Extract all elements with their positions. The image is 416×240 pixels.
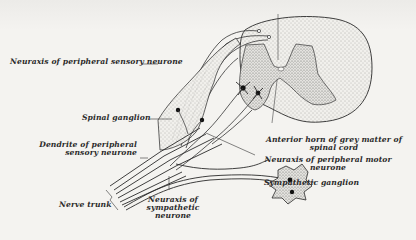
label-dendrite: Dendrite of peripheral sensory neurone bbox=[37, 141, 137, 157]
central-canal bbox=[278, 67, 284, 71]
label-neuraxis-symp-line3: neurone bbox=[143, 212, 203, 220]
label-sympathetic-ganglion: Sympathetic ganglion bbox=[264, 179, 359, 187]
label-anterior-horn-line2: spinal cord bbox=[264, 144, 404, 152]
label-neuraxis-motor-line2: neurone bbox=[262, 164, 394, 172]
label-anterior-horn: Anterior horn of grey matter of spinal c… bbox=[264, 136, 404, 152]
label-nerve-trunk: Nerve trunk bbox=[59, 201, 112, 209]
label-neuraxis-sympathetic: Neuraxis of sympathetic neurone bbox=[143, 196, 203, 220]
spinal-ganglion bbox=[158, 38, 240, 150]
label-dendrite-line2: sensory neurone bbox=[37, 149, 137, 157]
label-neuraxis-motor: Neuraxis of peripheral motor neurone bbox=[262, 156, 394, 172]
label-neuraxis-sensory: Neuraxis of peripheral sensory neurone bbox=[10, 58, 183, 66]
label-spinal-ganglion: Spinal ganglion bbox=[82, 114, 151, 122]
